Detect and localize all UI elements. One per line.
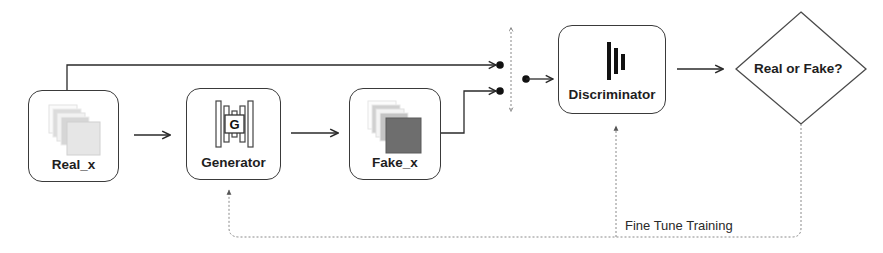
node-fake-x-label: Fake_x [350, 155, 440, 170]
image-stack-dark-icon [350, 93, 442, 155]
discriminator-bars-icon [559, 38, 667, 88]
node-generator: G Generator [186, 88, 281, 180]
image-stack-light-icon [29, 97, 120, 157]
generator-layers-icon: G [187, 93, 282, 153]
decision-label: Real or Fake? [754, 61, 843, 76]
edge-fake-to-switch [441, 91, 496, 133]
node-real-x: Real_x [28, 90, 119, 182]
node-real-x-label: Real_x [29, 157, 118, 172]
edge-real-to-switch [67, 65, 496, 91]
node-discriminator-label: Discriminator [559, 87, 665, 102]
switch-input-top-dot [496, 61, 504, 69]
feedback-caption: Fine Tune Training [625, 218, 733, 233]
switch-input-bottom-dot [496, 87, 504, 95]
node-fake-x: Fake_x [349, 88, 441, 180]
node-generator-label: Generator [187, 155, 280, 170]
node-discriminator: Discriminator [558, 25, 666, 114]
generator-icon-letter: G [229, 117, 239, 132]
